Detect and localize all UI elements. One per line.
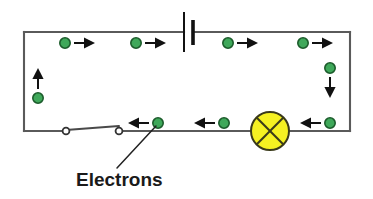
electron-marker (131, 37, 166, 48)
electron-marker (324, 63, 335, 98)
electron-direction-arrow-icon (300, 117, 311, 128)
electron-dot-icon (153, 118, 163, 128)
circuit-diagram-canvas: Electrons (0, 0, 373, 199)
electron-marker (128, 117, 163, 128)
battery-symbol (184, 12, 193, 52)
electron-marker (223, 37, 258, 48)
electron-dot-icon (131, 38, 141, 48)
electron-dot-icon (223, 38, 233, 48)
switch-symbol (63, 126, 123, 134)
electron-marker (298, 37, 333, 48)
switch-left-terminal-icon (63, 128, 70, 135)
electron-marker (60, 37, 95, 48)
electron-dot-icon (325, 63, 335, 73)
lamp-symbol (251, 112, 289, 150)
electron-direction-arrow-icon (128, 117, 139, 128)
electron-direction-arrow-icon (194, 117, 205, 128)
electron-marker (300, 117, 335, 128)
electron-dot-icon (60, 38, 70, 48)
electron-direction-arrow-icon (324, 87, 335, 98)
electron-dot-icon (219, 118, 229, 128)
electron-direction-arrow-icon (247, 37, 258, 48)
electron-marker (32, 68, 43, 103)
electron-dot-icon (33, 93, 43, 103)
electron-direction-arrow-icon (84, 37, 95, 48)
electron-dot-icon (325, 118, 335, 128)
electron-marker (194, 117, 229, 128)
electrons-caption-label: Electrons (76, 169, 163, 190)
switch-blade-icon (66, 126, 119, 130)
switch-right-terminal-icon (116, 128, 123, 135)
electron-dot-icon (298, 38, 308, 48)
circuit-diagram-figure: Electrons (0, 0, 373, 199)
electron-direction-arrow-icon (155, 37, 166, 48)
electron-direction-arrow-icon (322, 37, 333, 48)
electron-direction-arrow-icon (32, 68, 43, 79)
